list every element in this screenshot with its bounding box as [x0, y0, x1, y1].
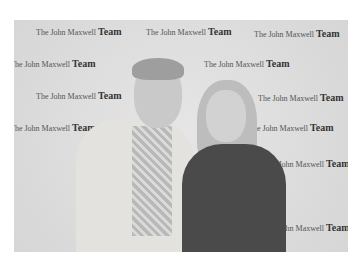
backdrop-logo: The John Maxwell Team — [36, 26, 122, 37]
woman-top — [182, 144, 286, 252]
backdrop-logo: The John Maxwell Team — [258, 92, 344, 103]
backdrop-logo: The John Maxwell Team — [36, 90, 122, 101]
man-hair — [132, 58, 184, 80]
backdrop-logo: The John Maxwell Team — [146, 26, 232, 37]
woman-face — [206, 90, 246, 142]
backdrop-logo: The John Maxwell Team — [14, 58, 96, 69]
photo: The John Maxwell Team The John Maxwell T… — [14, 20, 348, 252]
man-shirt — [132, 126, 172, 236]
backdrop-logo: The John Maxwell Team — [248, 122, 334, 133]
backdrop-logo: The John Maxwell Team — [14, 122, 96, 133]
backdrop-logo: The John Maxwell Team — [204, 58, 290, 69]
backdrop-logo: The John Maxwell Team — [254, 28, 340, 39]
